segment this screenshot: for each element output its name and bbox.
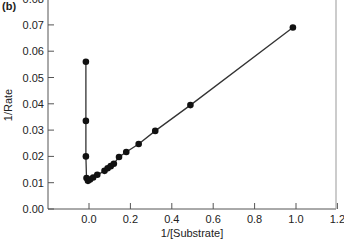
- x-tick-label: 1.0: [288, 213, 303, 225]
- y-tick-label: 0.02: [23, 150, 44, 162]
- y-tick-label: 0.01: [23, 177, 44, 189]
- data-point: [83, 58, 90, 65]
- x-tick-label: 0.8: [247, 213, 262, 225]
- data-point: [152, 128, 159, 135]
- x-axis-label: 1/[Substrate]: [161, 227, 223, 239]
- y-tick-label: 0.08: [23, 0, 44, 5]
- y-tick-label: 0.07: [23, 19, 44, 31]
- y-tick-label: 0.05: [23, 72, 44, 84]
- x-tick-label: 0.0: [81, 213, 96, 225]
- data-point: [123, 149, 130, 156]
- data-points: [83, 24, 297, 184]
- y-tick-label: 0.04: [23, 98, 44, 110]
- data-point: [94, 172, 101, 179]
- lineweaver-burk-plot: (b) 0.000.010.020.030.040.050.060.070.08…: [0, 0, 344, 240]
- data-point: [116, 154, 123, 161]
- data-point: [135, 141, 142, 148]
- data-point: [187, 102, 194, 109]
- y-tick-label: 0.03: [23, 124, 44, 136]
- y-tick-label: 0.00: [23, 203, 44, 215]
- x-axis-ticks: 0.00.20.40.60.81.01.2: [81, 203, 344, 225]
- y-axis-label: 1/Rate: [2, 89, 14, 121]
- data-point: [83, 153, 90, 160]
- x-tick-label: 0.2: [123, 213, 138, 225]
- x-tick-label: 0.4: [164, 213, 179, 225]
- x-tick-label: 0.6: [206, 213, 221, 225]
- data-point: [290, 24, 297, 31]
- x-tick-label: 1.2: [330, 213, 344, 225]
- data-point: [111, 160, 118, 167]
- panel-label: (b): [2, 0, 16, 12]
- y-axis-ticks: 0.000.010.020.030.040.050.060.070.08: [23, 0, 54, 215]
- data-point: [83, 118, 90, 125]
- y-tick-label: 0.06: [23, 45, 44, 57]
